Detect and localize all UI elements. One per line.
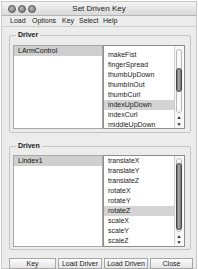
menu-options[interactable]: Options [32,17,56,24]
driver-object-item[interactable]: LArmControl [14,46,102,56]
close-button[interactable]: Close [150,258,193,269]
driven-attr-item[interactable]: scaleY [104,226,174,236]
driver-attr-item[interactable]: thumbInOut [104,80,174,90]
load-driven-button[interactable]: Load Driven [104,258,148,269]
driven-label: Driven [16,142,42,149]
driven-attr-item[interactable]: rotateY [104,196,174,206]
driver-object-list[interactable]: LArmControl [13,45,103,129]
driver-attr-item[interactable]: makeFist [104,50,174,60]
driven-attr-item[interactable]: rotateX [104,186,174,196]
menu-bar: Load Options Key Select Help [2,16,196,27]
scroll-thumb[interactable] [176,68,182,92]
set-driven-key-window: Set Driven Key Load Options Key Select H… [1,1,197,269]
driven-object-item[interactable]: Lindex1 [14,156,102,166]
driven-attr-item[interactable]: scaleZ [104,236,174,246]
driver-attr-item[interactable]: indexCurl [104,110,174,120]
title-bar[interactable]: Set Driven Key [2,2,196,16]
window-title: Set Driven Key [2,4,196,13]
driven-object-list[interactable]: Lindex1 [13,155,103,247]
scroll-up-arrow-icon[interactable]: ▲ [176,114,182,120]
menu-help[interactable]: Help [103,17,117,24]
driver-attr-item[interactable]: middleUpDown [104,120,174,129]
driven-attr-item[interactable]: translateZ [104,176,174,186]
driver-attribute-list[interactable]: makeFist fingerSpread thumbUpDown thumbI… [103,45,185,129]
driven-group: Driven Lindex1 translateX translateY tra… [9,146,191,250]
menu-select[interactable]: Select [79,17,98,24]
scroll-thumb[interactable] [176,163,182,230]
menu-load[interactable]: Load [10,17,26,24]
driven-attr-item[interactable]: translateX [104,156,174,166]
key-button[interactable]: Key [9,258,56,269]
load-driver-button[interactable]: Load Driver [58,258,102,269]
driven-scrollbar[interactable]: ▲ ▼ [174,156,183,246]
driver-attr-item[interactable]: fingerSpread [104,60,174,70]
driver-label: Driver [16,31,40,38]
driven-attr-item[interactable]: translateY [104,166,174,176]
driven-attr-item-selected[interactable]: rotateZ [104,206,174,216]
driven-attr-item[interactable]: scaleX [104,216,174,226]
driver-attr-item-selected[interactable]: indexUpDown [104,100,174,110]
driver-attr-item[interactable]: thumbCurl [104,90,174,100]
driven-attribute-list[interactable]: translateX translateY translateZ rotateX… [103,155,185,247]
driver-attr-item[interactable]: thumbUpDown [104,70,174,80]
driver-scrollbar[interactable]: ▲ ▼ [174,46,183,128]
scroll-down-arrow-icon[interactable]: ▼ [176,239,182,245]
menu-key[interactable]: Key [62,17,74,24]
driver-group: Driver LArmControl makeFist fingerSpread… [9,35,191,133]
scroll-down-arrow-icon[interactable]: ▼ [176,121,182,127]
